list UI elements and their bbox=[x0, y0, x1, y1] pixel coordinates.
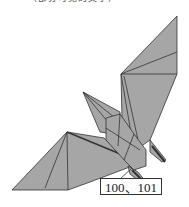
diagram-page: （部分可见的文字） bbox=[0, 0, 189, 207]
origami-bat-figure bbox=[0, 0, 189, 207]
step-number-label: 100、101 bbox=[100, 178, 162, 195]
